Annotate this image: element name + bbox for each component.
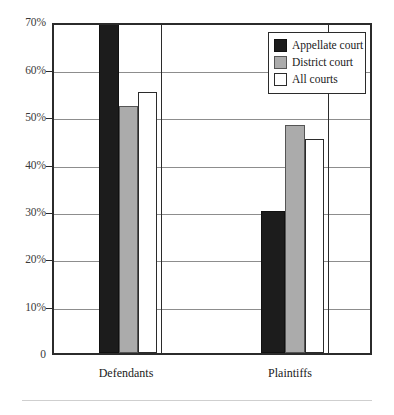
legend-swatch-icon-all-courts [274, 73, 287, 86]
legend-item-all-courts: All courts [274, 71, 360, 88]
y-tick-label-60: 60% [0, 65, 46, 77]
y-tick-label-50: 50% [0, 112, 46, 124]
y-tick-label-40: 40% [0, 160, 46, 172]
x-axis-label-defendants: Defendants [66, 366, 186, 380]
legend-swatch-icon-appellate-court [274, 39, 287, 52]
legend-label-appellate-court: Appellate court [292, 39, 363, 52]
y-tick-label-30: 30% [0, 207, 46, 219]
y-tick-label-0: 0 [0, 349, 46, 361]
bar-defendants-district-court [119, 106, 138, 353]
bar-plaintiffs-district-court [285, 125, 305, 353]
legend-item-appellate-court: Appellate court [274, 37, 360, 54]
bar-defendants-all-courts [138, 92, 157, 353]
y-tick-label-20: 20% [0, 254, 46, 266]
y-tick-label-10: 10% [0, 302, 46, 314]
bar-chart-figure: 70% 60% 50% 40% 30% 20% 10% 0 [0, 0, 394, 415]
category-divider-1 [161, 25, 162, 353]
legend-swatch-icon-district-court [274, 56, 287, 69]
legend-label-district-court: District court [292, 56, 353, 69]
legend-label-all-courts: All courts [292, 73, 338, 86]
y-tick-label-70: 70% [0, 17, 46, 29]
bottom-divider [22, 400, 372, 401]
bar-plaintiffs-appellate-court [261, 211, 285, 353]
bar-defendants-appellate-court [99, 25, 119, 353]
legend-item-district-court: District court [274, 54, 360, 71]
x-axis-label-plaintiffs: Plaintiffs [230, 366, 350, 380]
bar-plaintiffs-all-courts [305, 139, 324, 353]
chart-legend: Appellate court District court All court… [268, 32, 366, 94]
